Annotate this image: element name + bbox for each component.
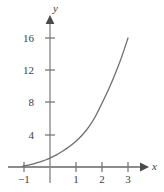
x-axis-label: x [152,161,157,172]
data-curve [23,38,128,166]
x-tick-label-2: 2 [92,174,112,185]
x-tick-label-3: 3 [118,174,138,185]
x-axis-arrow [140,163,149,172]
graph-figure: 16 12 8 4 −1 1 2 3 y x [0,0,164,192]
y-tick-label-12: 12 [16,65,34,76]
y-tick-label-16: 16 [16,33,34,44]
y-axis-arrow [46,15,55,24]
plot-area [0,0,164,192]
x-tick-label-neg1: −1 [14,174,34,185]
y-tick-label-8: 8 [16,97,34,108]
x-tick-label-1: 1 [66,174,86,185]
y-tick-label-4: 4 [16,130,34,141]
y-axis-label: y [53,3,58,14]
